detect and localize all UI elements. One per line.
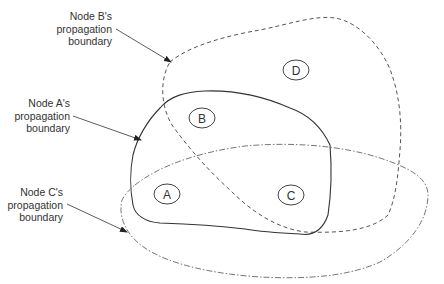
diagram-canvas: D B A C Node B's propagation boundary No…	[0, 0, 444, 284]
callout-b-line-2: propagation	[40, 23, 112, 36]
callout-a-line-1: Node A's	[0, 97, 70, 110]
callout-b-line-1: Node B's	[40, 10, 112, 23]
node-c[interactable]: C	[278, 185, 304, 205]
callout-a-line-2: propagation	[0, 110, 70, 123]
callout-label-c: Node C's propagation boundary	[0, 186, 63, 224]
callout-c-line-2: propagation	[0, 199, 63, 212]
callout-a-line-3: boundary	[0, 122, 70, 135]
callout-label-b: Node B's propagation boundary	[40, 10, 112, 48]
callout-b-line-3: boundary	[40, 35, 112, 48]
node-d-label: D	[292, 64, 301, 78]
node-c-boundary	[121, 144, 428, 277]
callout-label-a: Node A's propagation boundary	[0, 97, 70, 135]
node-a-boundary	[131, 91, 331, 235]
callout-arrow-a	[73, 116, 141, 140]
callout-arrow-c	[67, 204, 127, 232]
node-a-label: A	[163, 188, 171, 202]
node-a[interactable]: A	[154, 184, 180, 204]
node-b[interactable]: B	[189, 108, 215, 128]
callout-c-line-1: Node C's	[0, 186, 63, 199]
callout-arrow-b	[116, 29, 171, 62]
callout-c-line-3: boundary	[0, 211, 63, 224]
node-b-label: B	[198, 112, 206, 126]
node-d[interactable]: D	[283, 60, 309, 80]
node-c-label: C	[287, 189, 296, 203]
